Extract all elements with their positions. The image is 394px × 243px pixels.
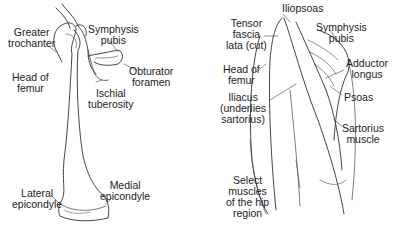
label-sartorius: Sartorius muscle [342,123,384,145]
label-line: femur [12,83,49,94]
label-greater-trochanter: Greater trochanter [8,27,55,49]
label-ischial-tuberosity: Ischial tuberosity [88,88,134,110]
label-line: Iliopsoas [282,3,323,14]
label-line: sartorius) [220,114,266,125]
label-line: Psoas [344,92,373,103]
label-psoas: Psoas [344,92,373,103]
label-line: lata (cut) [226,40,267,51]
label-symphysis-pubis-left: Symphysis pubis [88,24,139,46]
label-iliacus: Iliacus (underlies sartorius) [220,92,266,125]
label-line: longus [346,69,388,80]
label-head-of-femur-left: Head of femur [12,72,49,94]
label-line: region [226,208,269,219]
label-line: epicondyle [100,191,150,202]
label-line: pubis [316,33,367,44]
label-head-of-femur-right: Head of femur [223,64,260,86]
label-lateral-epicondyle: Lateral epicondyle [12,188,62,210]
label-tensor-fascia-lata: Tensor fascia lata (cut) [226,18,267,51]
label-line: femur [223,75,260,86]
label-adductor-longus: Adductor longus [346,58,388,80]
label-line: foramen [129,77,173,88]
label-medial-epicondyle: Medial epicondyle [100,180,150,202]
label-line: tuberosity [88,99,134,110]
label-line: muscle [342,134,384,145]
caption-select-muscles: Select muscles of the hip region [226,175,269,219]
label-symphysis-pubis-right: Symphysis pubis [316,22,367,44]
label-line: trochanter [8,38,55,49]
label-iliopsoas: Iliopsoas [282,3,323,14]
label-line: epicondyle [12,199,62,210]
label-obturator-foramen: Obturator foramen [129,66,173,88]
label-line: pubis [88,35,139,46]
